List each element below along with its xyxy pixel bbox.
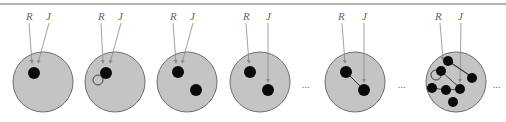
ellipsis: ...	[302, 79, 310, 90]
region-circle	[157, 52, 217, 112]
label-r: R	[169, 10, 177, 22]
label-j: J	[266, 10, 272, 22]
node	[340, 66, 352, 78]
region-circle	[325, 52, 385, 112]
node	[448, 97, 458, 107]
label-r: R	[25, 10, 33, 22]
state-diagram-sequence: R J R J R J R J ... R J	[0, 0, 506, 122]
label-j: J	[362, 10, 368, 22]
panel-6: R J	[426, 10, 486, 112]
node	[190, 84, 202, 96]
region-circle	[85, 52, 145, 112]
node	[244, 66, 256, 78]
label-j: J	[190, 10, 196, 22]
panel-2: R J	[85, 10, 145, 112]
label-r: R	[242, 10, 250, 22]
arrow-r	[440, 23, 443, 60]
label-j: J	[46, 10, 52, 22]
label-j: J	[458, 10, 464, 22]
label-r: R	[434, 10, 442, 22]
node	[436, 66, 446, 76]
label-r: R	[97, 10, 105, 22]
node	[443, 56, 453, 66]
panel-4: R J	[230, 10, 290, 112]
node	[455, 84, 465, 94]
panel-1: R J	[13, 10, 73, 112]
node	[100, 67, 112, 79]
region-circle	[13, 52, 73, 112]
ellipsis: ...	[493, 79, 501, 90]
node	[28, 67, 40, 79]
node	[467, 73, 477, 83]
panel-5: R J	[325, 10, 385, 112]
panel-3: R J	[157, 10, 217, 112]
node	[172, 66, 184, 78]
label-j: J	[118, 10, 124, 22]
node	[427, 83, 437, 93]
ellipsis: ...	[398, 79, 406, 90]
node	[358, 84, 370, 96]
node	[441, 85, 451, 95]
node	[262, 84, 274, 96]
region-circle	[230, 52, 290, 112]
label-r: R	[337, 10, 345, 22]
